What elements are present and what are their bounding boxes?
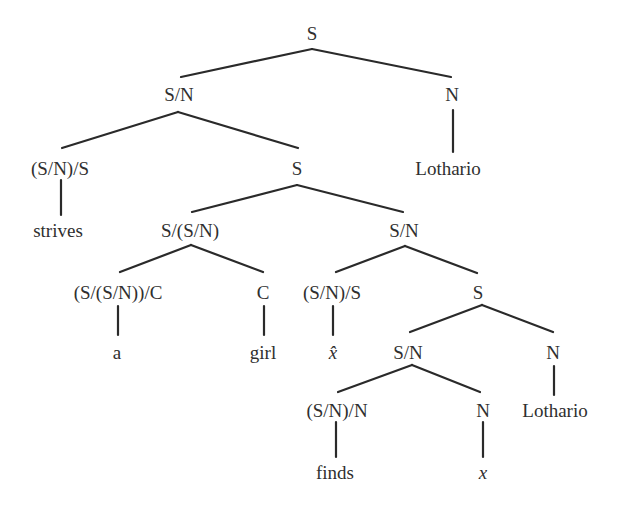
tree-node-label: a [113, 342, 122, 363]
tree-node-label: S/N [389, 220, 419, 241]
tree-edge [297, 185, 403, 212]
tree-edge [192, 185, 297, 212]
tree-node-label: finds [316, 462, 354, 483]
tree-node-label: S [307, 23, 318, 44]
tree-edge [62, 112, 178, 148]
tree-node-label: (S/N)/N [306, 400, 368, 422]
tree-node-label: Lothario [415, 158, 480, 179]
tree-node-label: (S/N)/S [31, 158, 89, 180]
tree-node-label: N [546, 342, 560, 363]
derivation-tree: SS/NN(S/N)/SSLothariostrivesS/(S/N)S/N(S… [0, 0, 619, 505]
tree-node-label: (S/(S/N))/C [74, 282, 163, 304]
tree-edge [405, 246, 477, 273]
tree-node-label: S/N [164, 84, 194, 105]
tree-node-label: Lothario [522, 400, 587, 421]
tree-edge [312, 49, 451, 77]
tree-edge [336, 246, 405, 272]
tree-node-label: girl [250, 342, 276, 363]
tree-node-label: x̂ [328, 342, 338, 363]
tree-edge [410, 305, 482, 332]
tree-node-label: S/N [393, 342, 423, 363]
tree-edge [482, 305, 553, 332]
tree-edge [120, 245, 191, 272]
tree-node-label: (S/N)/S [303, 282, 361, 304]
tree-node-label: S/(S/N) [161, 220, 219, 242]
tree-edges [61, 49, 554, 457]
tree-node-label: x [478, 462, 488, 483]
tree-node-label: S [473, 282, 484, 303]
tree-edge [181, 49, 312, 77]
tree-node-label: N [476, 400, 490, 421]
tree-edge [338, 365, 412, 392]
tree-edge [178, 112, 298, 148]
tree-node-label: C [257, 282, 270, 303]
tree-node-label: N [445, 84, 459, 105]
tree-edge [412, 365, 480, 392]
tree-edge [191, 245, 263, 272]
tree-node-label: strives [33, 220, 83, 241]
tree-nodes: SS/NN(S/N)/SSLothariostrivesS/(S/N)S/N(S… [31, 23, 588, 483]
tree-node-label: S [292, 158, 303, 179]
